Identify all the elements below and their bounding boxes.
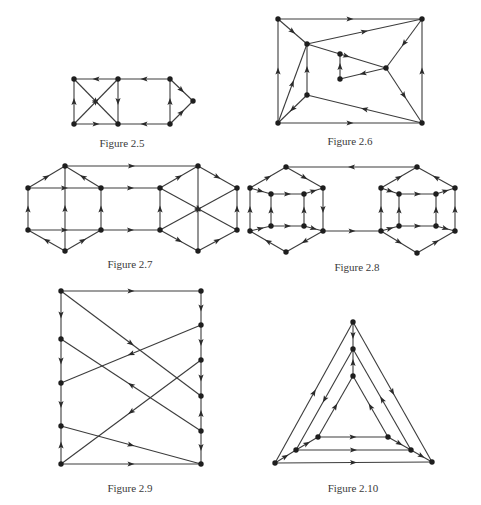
graph-vertex (452, 228, 457, 233)
graph-vertex (275, 16, 280, 21)
arrowhead-icon (300, 174, 307, 180)
graph-vertex (195, 248, 200, 253)
graph-vertex (234, 227, 239, 232)
graph-vertex (378, 228, 383, 233)
graph-vertex (350, 373, 355, 378)
graph-vertex (452, 185, 457, 190)
directed-graph-fig-2-5 (71, 76, 195, 126)
graph-vertex (167, 121, 172, 126)
directed-graph-fig-2-6 (275, 16, 424, 125)
graph-vertex (98, 185, 103, 190)
graph-vertex (320, 228, 325, 233)
graph-vertex (234, 185, 239, 190)
graph-vertex (301, 191, 306, 196)
graph-vertex (25, 185, 30, 190)
arrowhead-icon (44, 239, 51, 245)
arrowhead-icon (369, 404, 375, 411)
graph-vertex (157, 185, 162, 190)
arrowhead-icon (303, 442, 310, 448)
graph-vertex (337, 51, 342, 56)
graph-vertex (315, 434, 320, 439)
graph-vertex (58, 288, 63, 293)
arrowhead-icon (395, 238, 402, 244)
graph-vertex (62, 163, 67, 168)
graph-vertex (247, 228, 252, 233)
graph-vertex (283, 164, 288, 169)
graph-vertex (383, 65, 388, 70)
graph-vertex (58, 336, 63, 341)
arrowhead-icon (42, 175, 49, 181)
graph-vertex (71, 121, 76, 126)
arrowhead-icon (432, 240, 439, 246)
graph-figures-canvas (0, 0, 481, 505)
arrowhead-icon (265, 240, 272, 246)
graph-vertex (350, 319, 355, 324)
directed-graph-fig-2-8 (247, 164, 457, 255)
graph-vertex (198, 393, 203, 398)
graph-vertex (304, 41, 309, 46)
arrowhead-icon (380, 397, 386, 404)
graph-vertex (268, 191, 273, 196)
graph-vertex (429, 459, 434, 464)
arrowhead-icon (332, 404, 338, 411)
arrowhead-icon (323, 395, 329, 402)
graph-vertex (58, 461, 63, 466)
arrowhead-icon (79, 239, 86, 245)
graph-vertex (195, 163, 200, 168)
arrowhead-icon (264, 176, 271, 182)
graph-vertex (301, 223, 306, 228)
graph-vertex (167, 76, 172, 81)
graph-vertex (275, 120, 280, 125)
arrowhead-icon (281, 455, 288, 461)
arrowhead-icon (395, 176, 402, 182)
arrowhead-icon (128, 408, 135, 414)
graph-vertex (157, 227, 162, 232)
arrowhead-icon (400, 91, 406, 98)
caption-figure-2-9: Figure 2.9 (107, 482, 152, 494)
arrowhead-icon (127, 339, 134, 345)
graph-vertex (62, 248, 67, 253)
textbook-figure-page: Figure 2.5 Figure 2.6 Figure 2.7 Figure … (0, 0, 481, 505)
caption-figure-2-5: Figure 2.5 (99, 137, 144, 149)
graph-vertex (396, 223, 401, 228)
graph-vertex (293, 447, 298, 452)
caption-figure-2-7: Figure 2.7 (107, 258, 152, 270)
graph-vertex (190, 98, 195, 103)
directed-graph-fig-2-7 (25, 163, 239, 253)
graph-vertex (337, 76, 342, 81)
graph-vertex (115, 76, 120, 81)
arrowhead-icon (302, 238, 309, 244)
graph-vertex (408, 447, 413, 452)
graph-vertex (71, 76, 76, 81)
graph-vertex (272, 460, 277, 465)
arrowhead-icon (402, 39, 408, 46)
graph-vertex (115, 121, 120, 126)
graph-vertex (198, 428, 203, 433)
arrowhead-icon (175, 175, 182, 181)
graph-vertex (419, 16, 424, 21)
graph-vertex (350, 346, 355, 351)
graph-vertex (283, 249, 288, 254)
caption-figure-2-10: Figure 2.10 (328, 482, 379, 494)
arrowhead-icon (128, 383, 135, 389)
graph-vertex (433, 191, 438, 196)
arrowhead-icon (213, 173, 220, 179)
caption-figure-2-8: Figure 2.8 (334, 261, 379, 273)
graph-vertex (385, 434, 390, 439)
graph-vertex (198, 288, 203, 293)
graph-vertex (320, 185, 325, 190)
graph-vertex (58, 423, 63, 428)
graph-vertex (25, 227, 30, 232)
graph-vertex (198, 461, 203, 466)
arrowhead-icon (80, 175, 87, 181)
graph-vertex (378, 185, 383, 190)
graph-vertex (58, 380, 63, 385)
graph-vertex (198, 357, 203, 362)
arrowhead-icon (389, 388, 395, 395)
caption-figure-2-6: Figure 2.6 (327, 135, 372, 147)
graph-vertex (268, 223, 273, 228)
graph-vertex (414, 250, 419, 255)
arrowhead-icon (417, 452, 424, 458)
directed-graph-fig-2-9 (58, 288, 203, 466)
arrowhead-icon (395, 440, 402, 446)
